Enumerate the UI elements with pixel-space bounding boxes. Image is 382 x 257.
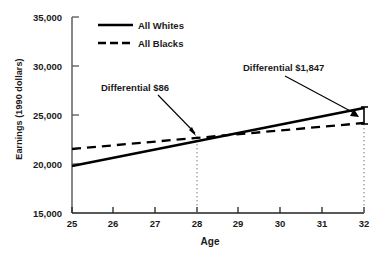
x-tick-marks bbox=[72, 207, 364, 213]
y-tick-marks bbox=[72, 17, 79, 213]
earnings-by-age-chart bbox=[0, 0, 382, 257]
leader-arrow-differential-86 bbox=[158, 95, 196, 136]
series-line-all-whites bbox=[72, 108, 364, 166]
